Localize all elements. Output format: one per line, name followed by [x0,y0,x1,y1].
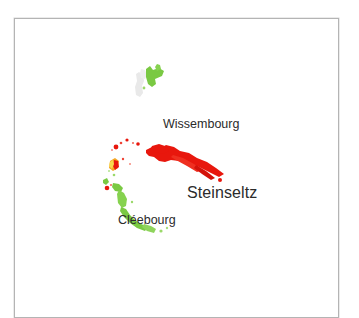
map-canvas[interactable] [15,19,340,292]
map-label-steinseltz[interactable]: Steinseltz [187,185,257,201]
map-label-cleebourg[interactable]: Cléebourg [118,214,176,227]
feature-steinseltz-red-band[interactable] [146,144,224,182]
feature-steinseltz-amber-dot[interactable] [109,158,119,171]
map-frame: Wissembourg Steinseltz Cléebourg [14,18,339,318]
feature-wissembourg-faint-patch[interactable] [135,69,147,97]
map-label-wissembourg[interactable]: Wissembourg [163,118,239,131]
